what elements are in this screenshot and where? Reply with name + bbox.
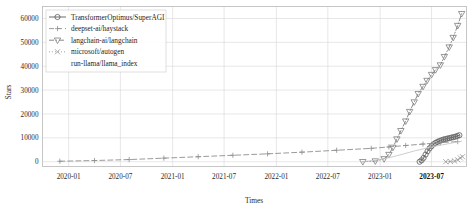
legend-item-4[interactable]: run-llama/llama_index: [71, 59, 138, 68]
chart-legend: TransformerOptimus/SuperAGIdeepset-ai/ha…: [46, 10, 166, 72]
x-tick-label: 2022-07: [316, 173, 340, 181]
legend-item-label: run-llama/llama_index: [71, 59, 138, 68]
y-tick-label: 50000: [21, 39, 39, 47]
x-axis-title: Times: [245, 196, 263, 205]
x-axis-tick-labels: 2020-012020-072021-012021-072022-012022-…: [57, 172, 445, 181]
series-3: [443, 154, 465, 164]
y-tick-label: 0: [35, 158, 39, 166]
x-tick-label: 2021-07: [212, 173, 236, 181]
y-tick-label: 60000: [21, 15, 39, 23]
x-tick-label: 2023-01: [368, 173, 392, 181]
x-tick-label: 2023-07: [419, 172, 444, 181]
y-tick-label: 10000: [21, 134, 39, 142]
y-tick-label: 30000: [21, 87, 39, 95]
series-line: [60, 142, 458, 162]
legend-item-label: langchain-ai/langchain: [71, 36, 138, 45]
x-tick-label: 2022-01: [264, 173, 288, 181]
series-2: [360, 11, 465, 165]
y-axis-title: Stars: [4, 84, 13, 99]
x-tick-label: 2020-01: [57, 173, 81, 181]
legend-item-label: deepset-ai/haystack: [71, 24, 128, 33]
y-tick-label: 40000: [21, 63, 39, 71]
y-tick-label: 20000: [21, 111, 39, 119]
legend-item-label: microsoft/autogen: [71, 47, 124, 56]
github-stars-line-chart: 0100002000030000400005000060000 2020-012…: [0, 0, 475, 209]
legend-item-label: TransformerOptimus/SuperAGI: [71, 13, 165, 22]
x-tick-label: 2021-01: [161, 173, 185, 181]
x-tick-label: 2020-07: [108, 173, 132, 181]
series-1: [57, 139, 460, 164]
chart-svg: 0100002000030000400005000060000 2020-012…: [0, 0, 475, 209]
y-axis-tick-labels: 0100002000030000400005000060000: [21, 15, 39, 166]
